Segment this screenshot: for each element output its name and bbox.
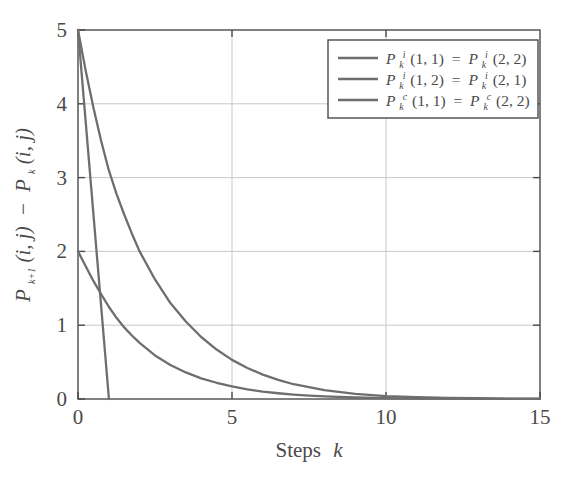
ytick-label-3: 3 — [57, 166, 68, 190]
legend-2-args2: (2, 2) — [496, 92, 530, 110]
legend-2-base: P — [385, 92, 396, 109]
y-axis-title-p2sub: k — [26, 169, 37, 174]
x-axis-title-word: Steps — [275, 438, 321, 462]
legend-1-sup2: i — [485, 70, 488, 81]
legend-2-eq: = — [453, 92, 462, 109]
legend-1-sub: k — [399, 80, 404, 91]
legend-2-sup2: c — [487, 91, 492, 102]
legend-2-sup: c — [403, 91, 408, 102]
legend-1-sup: i — [403, 70, 406, 81]
legend-1-args2: (2, 1) — [493, 71, 527, 89]
y-axis-title-p1: P — [11, 289, 35, 303]
x-axis-title: Steps k — [275, 438, 343, 462]
ytick-label-5: 5 — [57, 18, 68, 42]
y-axis-title-p2: P — [11, 179, 35, 193]
xtick-label-0: 0 — [73, 405, 84, 429]
ytick-label-2: 2 — [57, 239, 68, 263]
legend-0-eq: = — [452, 50, 461, 67]
xtick-label-5: 5 — [227, 405, 238, 429]
legend-2-sub: k — [399, 101, 404, 112]
legend-0-base: P — [385, 50, 396, 67]
legend-1-base: P — [385, 71, 396, 88]
legend-1-eq: = — [452, 71, 461, 88]
legend-2-sub2: k — [483, 101, 488, 112]
legend-0-base2: P — [467, 50, 478, 67]
legend[interactable]: P k i (1, 1) = P k i (2, 2) P k i (1, — [328, 40, 538, 118]
legend-1-args1: (1, 2) — [410, 71, 444, 89]
figure-container: 0 5 10 15 0 1 2 3 4 5 Steps k P k+1 (i, … — [0, 0, 573, 481]
legend-1-sub2: k — [482, 80, 487, 91]
xtick-label-10: 10 — [376, 405, 397, 429]
xtick-label-15: 15 — [530, 405, 551, 429]
legend-0-sub: k — [399, 59, 404, 70]
legend-0-sup2: i — [485, 49, 488, 60]
legend-2-args1: (1, 1) — [412, 92, 446, 110]
y-axis-title-p2args: (i, j) — [11, 128, 35, 164]
ytick-label-0: 0 — [57, 387, 68, 411]
legend-0-args1: (1, 1) — [410, 50, 444, 68]
y-axis-title-p1args: (i, j) — [11, 226, 35, 262]
y-axis-title-p1sub: k+1 — [26, 268, 37, 284]
legend-1-base2: P — [467, 71, 478, 88]
legend-2-base2: P — [469, 92, 480, 109]
legend-0-sup: i — [403, 49, 406, 60]
x-axis-title-var: k — [333, 438, 343, 462]
legend-0-sub2: k — [482, 59, 487, 70]
ytick-label-1: 1 — [57, 313, 68, 337]
ytick-label-4: 4 — [57, 92, 68, 116]
y-axis-title-minus: − — [11, 203, 35, 215]
chart-svg: 0 5 10 15 0 1 2 3 4 5 Steps k P k+1 (i, … — [0, 0, 573, 481]
legend-0-args2: (2, 2) — [493, 50, 527, 68]
